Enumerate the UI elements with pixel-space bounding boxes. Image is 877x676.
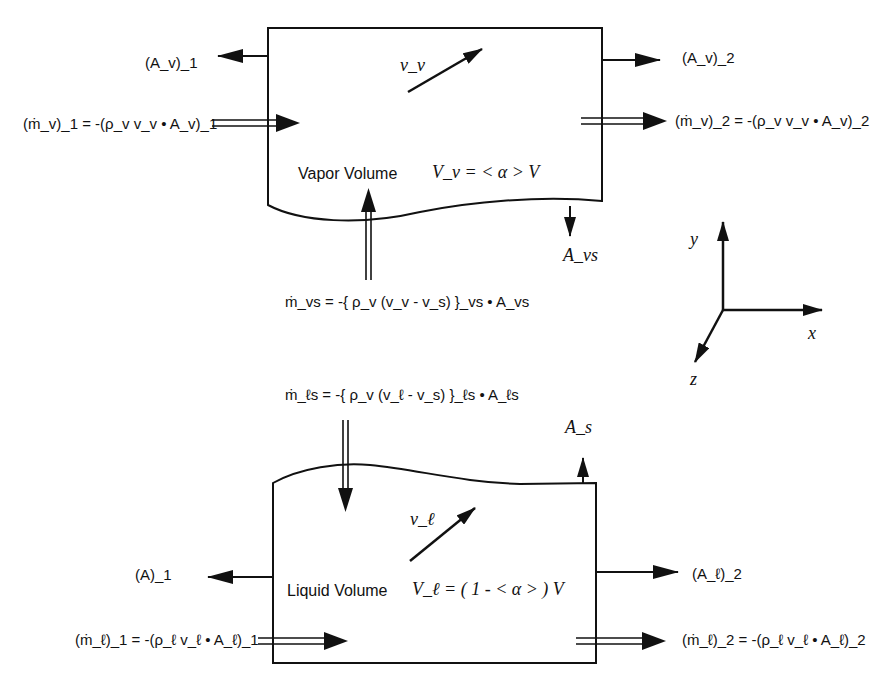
liquid-volume-boundary	[273, 464, 596, 663]
vapor-area-in-label: (A_v)_1	[145, 55, 198, 70]
liquid-mass-out-arrow	[642, 632, 666, 650]
vapor-volume-boundary	[268, 28, 602, 220]
liquid-interface-area-label: A_s	[565, 418, 592, 436]
liquid-area-out-label: (A_ℓ)_2	[692, 566, 742, 581]
liquid-interface-mass-label: ṁ_ℓs = -{ ρ_v (v_ℓ - v_s) }_ℓs • A_ℓs	[285, 387, 519, 402]
vapor-interface-mass-label: ṁ_vs = -{ ρ_v (v_v - v_s) }_vs • A_vs	[285, 294, 529, 309]
x-axis-label: x	[808, 324, 816, 342]
vapor-interface-area-label: A_vs	[563, 246, 598, 264]
control-volume-diagram	[0, 0, 877, 676]
vapor-mass-out-arrow	[643, 112, 667, 130]
liquid-mass-in-label: (ṁ_ℓ)_1 = -(ρ_ℓ v_ℓ • A_ℓ)_1	[75, 632, 259, 647]
liquid-volume-equation: V_ℓ = ( 1 - < α > ) V	[412, 580, 564, 598]
liquid-mass-out-label: (ṁ_ℓ)_2 = -(ρ_ℓ v_ℓ • A_ℓ)_2	[682, 632, 866, 647]
vapor-mass-in-arrow	[276, 114, 300, 132]
vapor-volume-equation: V_v = < α > V	[432, 163, 539, 181]
liquid-area-in-label: (A)_1	[135, 567, 172, 582]
liquid-mass-in-arrow	[324, 632, 348, 650]
y-axis-label: y	[690, 230, 698, 248]
vapor-interface-mass-arrow	[361, 188, 376, 212]
vapor-volume-label: Vapor Volume	[298, 166, 397, 182]
z-axis-label: z	[690, 370, 697, 388]
vapor-area-out-label: (A_v)_2	[682, 50, 735, 65]
vapor-mass-out-label: (ṁ_v)_2 = -(ρ_v v_v • A_v)_2	[675, 113, 869, 128]
liquid-velocity-label: v_ℓ	[410, 510, 435, 528]
liquid-volume-label: Liquid Volume	[287, 583, 388, 599]
liquid-interface-mass-arrow	[338, 488, 353, 512]
z-axis-arrow	[695, 310, 723, 362]
vapor-mass-in-label: (ṁ_v)_1 = -(ρ_v v_v • A_v)_1	[23, 116, 217, 131]
vapor-velocity-label: v_v	[400, 56, 425, 74]
